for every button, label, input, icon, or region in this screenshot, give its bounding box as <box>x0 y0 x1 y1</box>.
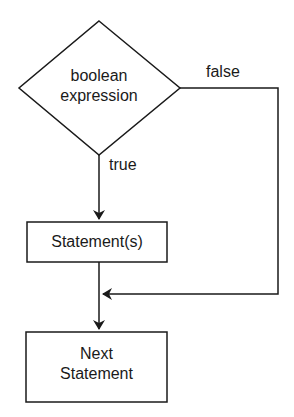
next-statement-label: Next Statement <box>26 344 167 384</box>
decision-line2: expression <box>39 86 159 106</box>
next-line1: Next <box>26 344 167 364</box>
false-label: false <box>206 62 240 82</box>
true-label: true <box>109 155 137 175</box>
decision-line1: boolean <box>39 66 159 86</box>
decision-label: boolean expression <box>39 66 159 106</box>
next-line2: Statement <box>26 364 167 384</box>
statement-label: Statement(s) <box>27 232 167 252</box>
